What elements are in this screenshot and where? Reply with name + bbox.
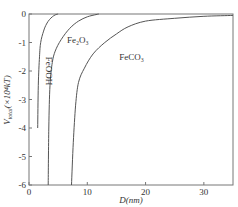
series-annotation: FeCO₃ <box>119 52 144 62</box>
axes <box>29 14 233 185</box>
y-tick-label: -1 <box>19 38 27 48</box>
x-tick-label: 10 <box>83 187 93 197</box>
series-line-feco3 <box>72 15 234 185</box>
plot-frame <box>29 14 233 185</box>
series-annotation: FeOOH <box>44 57 54 86</box>
chart: 01020300-1-2-3-4-5-6 FeOOHFe₂O₃FeCO₃ D(n… <box>0 0 238 207</box>
y-tick-label: -2 <box>19 66 27 76</box>
x-axis-label: D(nm) <box>118 195 143 205</box>
ticks: 01020300-1-2-3-4-5-6 <box>19 9 209 197</box>
y-tick-label: -4 <box>19 123 27 133</box>
x-tick-label: 0 <box>27 187 32 197</box>
y-axis-label-rest: (×10⁴kT) <box>2 75 12 108</box>
y-axis-label: Vtotal(×10⁴kT) <box>2 75 13 125</box>
y-axis-label-sub: total <box>7 108 13 119</box>
y-tick-label: -3 <box>19 95 27 105</box>
y-tick-label: -5 <box>19 152 27 162</box>
y-tick-label: -6 <box>19 180 27 190</box>
x-tick-label: 30 <box>199 187 209 197</box>
y-tick-label: 0 <box>22 9 27 19</box>
series-annotation: Fe₂O₃ <box>67 35 89 45</box>
